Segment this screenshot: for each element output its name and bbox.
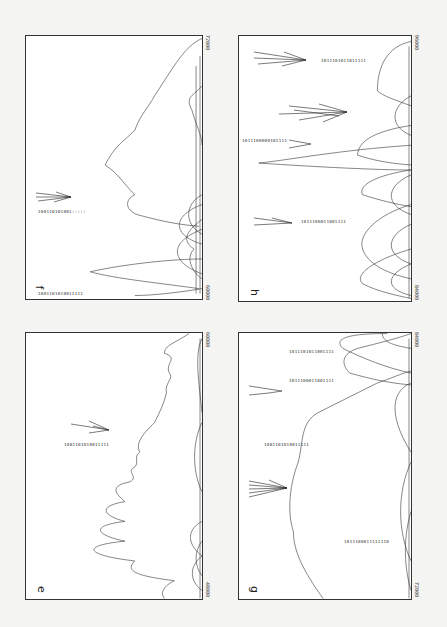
panel-label: e [35, 586, 48, 593]
panel-label: h [248, 289, 261, 296]
sequence-label: 1001101010011111 [264, 442, 309, 447]
arrow-glyph-icon [279, 102, 349, 124]
arrow-glyph-icon [254, 216, 294, 230]
panel-g-curves [239, 333, 411, 599]
panel-f: 100110101001::::: 1001101010011111 f [25, 35, 203, 300]
x-tick-label: 60000 [205, 285, 211, 300]
panel-e-curves [26, 333, 202, 599]
sequence-label: 1011101011011111 [321, 58, 366, 63]
arrow-glyph-icon [249, 385, 284, 397]
panel-h: 1011101011011111 1011100000101111 101110… [238, 35, 412, 302]
arrow-glyph-icon [249, 478, 289, 498]
sequence-label: 1011100011001111 [289, 378, 334, 383]
panel-e: 1001101010011111 e [25, 332, 203, 600]
arrow-glyph-icon [36, 191, 76, 203]
x-tick-label: 60000 [205, 332, 211, 347]
panel-g: 1011101011001111 1011100011001111 100110… [238, 332, 412, 600]
x-tick-label: 84000 [414, 285, 420, 300]
x-tick-label: 72000 [205, 35, 211, 50]
sequence-label: 1011101011001111 [289, 349, 334, 354]
x-tick-label: 84000 [414, 332, 420, 347]
sequence-label: 1001101010011111 [38, 291, 83, 296]
sequence-label: 1011100011111110 [344, 539, 389, 544]
sequence-label: 1001101010011111 [64, 442, 109, 447]
arrow-glyph-icon [254, 50, 309, 68]
sequence-label: 1011100000101111 [242, 138, 287, 143]
panel-h-curves [239, 36, 411, 301]
x-tick-label: 96000 [414, 35, 420, 50]
panel-label: g [248, 586, 261, 593]
arrow-glyph-icon [71, 421, 111, 435]
arrow-glyph-icon [289, 139, 314, 149]
panel-f-curves [26, 36, 202, 299]
x-tick-label: 48000 [205, 582, 211, 597]
panel-label: f [33, 286, 46, 290]
x-tick-label: 72000 [414, 582, 420, 597]
sequence-label: 1011100011001111 [301, 219, 346, 224]
sequence-label: 100110101001::::: [38, 209, 86, 214]
